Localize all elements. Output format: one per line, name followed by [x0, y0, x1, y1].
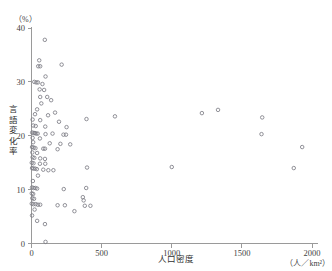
- data-point: [84, 186, 88, 190]
- y-axis-title-char: 率: [9, 146, 18, 156]
- data-point: [38, 118, 42, 122]
- data-point: [300, 145, 304, 149]
- y-tick-label: 40: [17, 23, 26, 33]
- data-point: [65, 125, 69, 129]
- data-point: [43, 222, 47, 226]
- data-point: [51, 132, 55, 136]
- data-point: [40, 102, 44, 106]
- data-point: [30, 214, 34, 218]
- data-point: [38, 137, 42, 141]
- x-tick-label: 1500: [233, 248, 250, 258]
- data-point: [49, 98, 53, 102]
- data-point: [113, 115, 117, 119]
- x-tick-label: 2000: [304, 248, 321, 258]
- data-points-layer: [30, 38, 304, 244]
- y-tick-label: 30: [17, 77, 26, 87]
- data-point: [47, 168, 51, 172]
- data-point: [35, 108, 39, 112]
- x-axis-unit: （人／km²）: [285, 259, 330, 268]
- data-point: [43, 157, 47, 161]
- data-point: [62, 187, 65, 191]
- data-point: [42, 88, 46, 92]
- data-point: [43, 125, 47, 129]
- y-tick-label: 0: [21, 239, 25, 249]
- data-point: [38, 88, 42, 92]
- y-axis-title-char: 言: [9, 104, 18, 114]
- data-point: [73, 209, 77, 213]
- data-point: [292, 166, 296, 170]
- data-point: [59, 142, 63, 146]
- data-point: [42, 168, 46, 172]
- data-point: [60, 63, 64, 67]
- data-point: [44, 75, 48, 79]
- data-point: [44, 132, 48, 136]
- data-point: [37, 59, 41, 63]
- data-point: [43, 162, 47, 166]
- data-point: [46, 114, 50, 118]
- data-point: [56, 147, 60, 151]
- data-point: [38, 203, 42, 207]
- y-axis-title-char: 語: [9, 115, 18, 125]
- plot-canvas: （%） （人／km²） 010203040 0500100015002000 言…: [0, 0, 332, 271]
- data-point: [48, 142, 52, 146]
- data-point: [56, 204, 60, 208]
- data-point: [68, 143, 72, 147]
- data-point: [83, 204, 87, 208]
- y-axis-title-char: 変: [9, 125, 18, 135]
- data-point: [36, 174, 40, 178]
- data-point: [38, 162, 42, 166]
- data-point: [64, 133, 68, 137]
- data-point: [45, 95, 49, 99]
- data-point: [38, 157, 42, 161]
- data-point: [41, 82, 45, 86]
- data-point: [33, 112, 37, 116]
- data-point: [57, 120, 61, 124]
- data-point: [33, 208, 37, 212]
- data-point: [260, 132, 264, 136]
- y-tick-label: 10: [17, 185, 26, 195]
- data-point: [43, 38, 47, 42]
- y-axis-title: 言語変化率: [9, 104, 18, 156]
- data-point: [216, 108, 220, 112]
- data-point: [170, 165, 174, 169]
- y-axis-ticks: 010203040: [17, 23, 32, 249]
- data-point: [35, 219, 39, 223]
- data-point: [200, 111, 204, 115]
- data-point: [85, 117, 89, 121]
- data-point: [52, 168, 56, 172]
- x-axis-unit-label: （人／km²）: [285, 259, 330, 268]
- scatter-plot-figure: （%） （人／km²） 010203040 0500100015002000 言…: [0, 0, 332, 271]
- data-point: [85, 166, 89, 170]
- x-tick-label: 500: [95, 248, 108, 258]
- data-point: [63, 204, 67, 208]
- data-point: [35, 151, 39, 155]
- y-axis-title-char: 化: [9, 136, 18, 146]
- x-tick-label: 0: [29, 248, 33, 258]
- axes: [32, 27, 319, 244]
- data-point: [260, 116, 264, 120]
- data-point: [53, 111, 57, 115]
- x-axis-title-label: 人口密度: [158, 254, 194, 264]
- data-point: [89, 204, 93, 208]
- data-point: [38, 95, 42, 99]
